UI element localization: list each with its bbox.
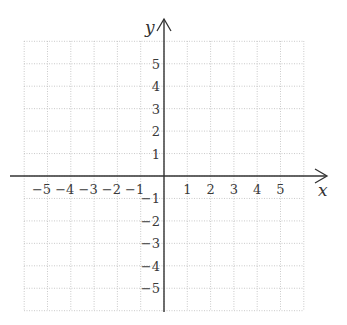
y-tick-label: −3 [141, 236, 160, 251]
y-tick-label: 3 [152, 102, 160, 117]
x-tick-label: −5 [32, 182, 51, 197]
y-tick-label: 5 [152, 57, 160, 72]
y-tick-label: −4 [141, 259, 160, 274]
x-tick-label: −2 [102, 182, 121, 197]
x-tick-label: 1 [183, 182, 191, 197]
x-tick-label: 2 [206, 182, 214, 197]
x-tick-label: −3 [79, 182, 98, 197]
x-tick-label: −4 [55, 182, 74, 197]
y-tick-label: 1 [152, 147, 160, 162]
x-tick-label: 3 [230, 182, 238, 197]
axes [10, 19, 327, 312]
y-tick-label: −2 [141, 214, 160, 229]
y-tick-label: 4 [152, 79, 160, 94]
coordinate-plane: x y −5−4−3−2−112345 54321−1−2−3−4−5 [0, 0, 347, 325]
y-tick-label: −1 [141, 191, 160, 206]
y-axis-label: y [144, 17, 155, 37]
y-tick-label: −5 [141, 281, 160, 296]
x-axis-label: x [318, 180, 328, 200]
x-tick-label: 4 [253, 182, 261, 197]
x-tick-label: 5 [276, 182, 284, 197]
y-tick-label: 2 [152, 124, 160, 139]
